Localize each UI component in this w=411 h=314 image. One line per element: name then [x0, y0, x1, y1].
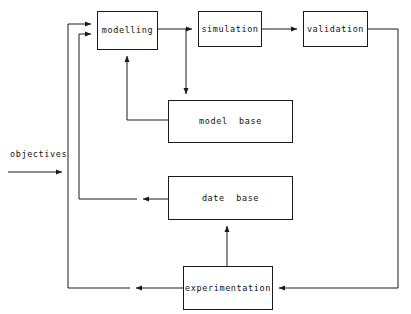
node-date-base[interactable]: date base — [168, 176, 293, 220]
node-modelling[interactable]: modelling — [97, 11, 158, 50]
label-objectives: objectives — [10, 150, 67, 159]
node-validation[interactable]: validation — [303, 11, 368, 47]
node-experimentation[interactable]: experimentation — [183, 266, 273, 310]
edge-validation-to-right-bus — [279, 29, 398, 288]
node-model-base[interactable]: model base — [168, 100, 293, 143]
node-simulation[interactable]: simulation — [198, 11, 262, 47]
edge-model-base-to-modelling — [127, 56, 168, 120]
flow-diagram: modelling simulation validation model ba… — [0, 0, 411, 314]
